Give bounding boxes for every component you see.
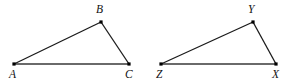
geometry-figure: ABCZYX [0, 0, 292, 82]
vertex-dot-a [12, 62, 15, 65]
vertex-label-c: C [125, 68, 133, 80]
triangle-zyx: ZYX [156, 3, 280, 80]
vertex-label-z: Z [156, 68, 163, 80]
triangles-svg: ABCZYX [0, 0, 292, 82]
vertex-dot-b [99, 20, 102, 23]
edge-zy [161, 22, 253, 64]
vertex-dot-y [251, 20, 254, 23]
vertex-dot-x [274, 62, 277, 65]
edge-yx [253, 22, 276, 64]
vertex-dot-c [127, 62, 130, 65]
vertex-label-b: B [96, 3, 103, 15]
vertex-label-y: Y [248, 3, 256, 15]
vertex-label-x: X [271, 68, 280, 80]
vertex-dot-z [159, 62, 162, 65]
vertex-label-a: A [8, 68, 17, 80]
edge-ab [14, 22, 101, 64]
triangle-abc: ABC [8, 3, 133, 80]
edge-bc [101, 22, 129, 64]
